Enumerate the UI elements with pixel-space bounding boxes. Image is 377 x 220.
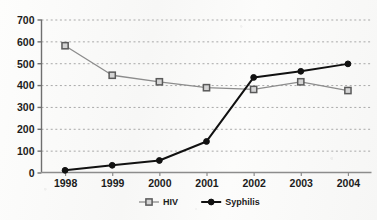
x-axis-tick-label: 2004 (337, 177, 361, 189)
y-axis-tick-label: 0 (29, 167, 35, 179)
data-point-marker-hiv (251, 86, 257, 92)
x-axis-tick-label: 2003 (290, 177, 314, 189)
x-axis-tick-label: 1999 (101, 177, 125, 189)
series-line-syphilis (65, 64, 348, 170)
y-axis-tick-label: 400 (17, 79, 35, 91)
x-axis-tick-label: 2002 (242, 177, 266, 189)
data-point-marker-syphilis (156, 158, 162, 164)
data-point-marker-hiv (298, 79, 304, 85)
y-axis-tick-label: 600 (17, 36, 35, 48)
data-point-marker-syphilis (298, 68, 304, 74)
series-markers-group (62, 43, 351, 174)
legend-label: Syphilis (225, 197, 260, 207)
data-point-marker-syphilis (204, 139, 210, 145)
data-point-marker-hiv (203, 85, 209, 91)
data-point-marker-syphilis (109, 162, 115, 168)
data-point-marker-hiv (345, 87, 351, 93)
y-axis-tick-labels-group: 0100200300400500600700 (17, 14, 35, 179)
data-point-marker-hiv (109, 72, 115, 78)
y-axis-tick-label: 500 (17, 58, 35, 70)
legend-swatch-marker (208, 199, 214, 205)
chart-legend: HIVSyphilis (139, 197, 260, 207)
data-point-marker-syphilis (62, 167, 68, 173)
legend-swatch-marker (146, 199, 152, 205)
data-point-marker-hiv (62, 43, 68, 49)
x-axis-tick-label: 1998 (54, 177, 78, 189)
legend-label: HIV (163, 197, 178, 207)
x-axis-tick-labels-group: 1998199920002001200220032004 (54, 177, 360, 189)
series-line-hiv (65, 46, 348, 91)
legend-item-hiv[interactable]: HIV (139, 197, 178, 207)
x-axis-tick-label: 2001 (195, 177, 219, 189)
y-axis-tick-label: 300 (17, 101, 35, 113)
y-axis-tick-label: 100 (17, 145, 35, 157)
y-axis-tick-label: 700 (17, 14, 35, 26)
line-chart-figure: 0100200300400500600700 19981999200020012… (0, 0, 377, 220)
data-point-marker-syphilis (251, 75, 257, 81)
legend-item-syphilis[interactable]: Syphilis (201, 197, 260, 207)
data-point-marker-hiv (156, 79, 162, 85)
data-point-marker-syphilis (345, 61, 351, 67)
y-axis-tick-label: 200 (17, 123, 35, 135)
x-axis-tick-label: 2000 (148, 177, 172, 189)
chart-canvas: 0100200300400500600700 19981999200020012… (0, 0, 377, 220)
